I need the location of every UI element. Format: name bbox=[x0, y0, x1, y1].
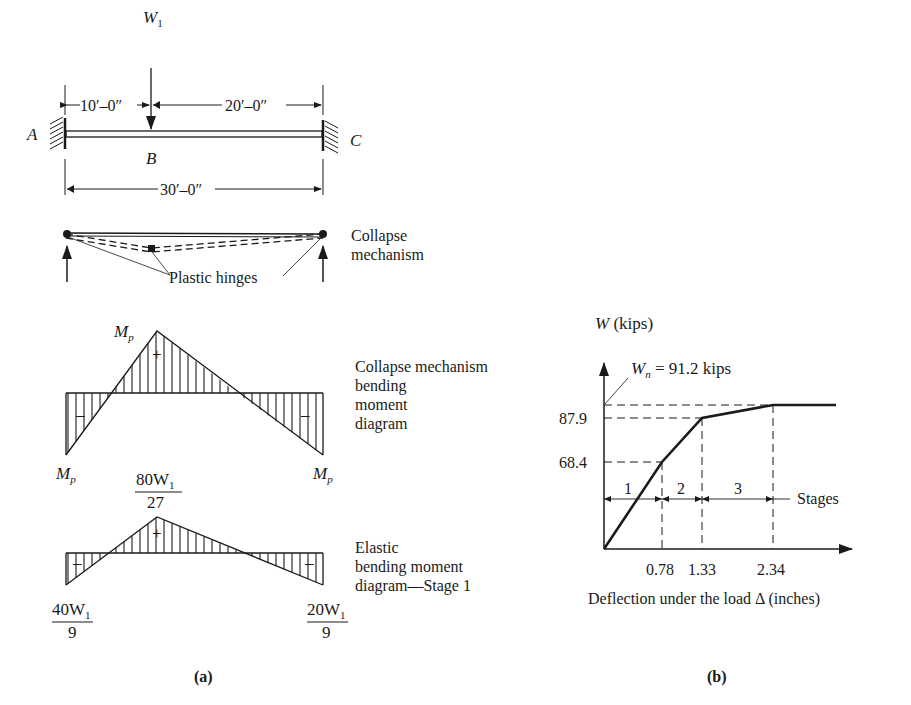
collapse-right-sub: p bbox=[327, 473, 333, 485]
fixed-support-left-icon bbox=[50, 117, 65, 149]
caption-a: (a) bbox=[194, 667, 213, 686]
x-axis-label: Deflection under the load Δ (inches) bbox=[588, 589, 820, 608]
elastic-plus-sign: + bbox=[152, 524, 162, 543]
collapse-left-var: M bbox=[56, 464, 70, 483]
wn-sub: n bbox=[645, 368, 651, 380]
beam bbox=[66, 131, 322, 137]
collapse-right-var: M bbox=[313, 464, 327, 483]
collapse-left-sub: p bbox=[70, 473, 76, 485]
mechanism-title-2: mechanism bbox=[351, 245, 424, 264]
wn-var: W bbox=[631, 359, 645, 378]
elastic-left-sub: 1 bbox=[85, 609, 91, 621]
dim-total-label: 30′–0″ bbox=[160, 180, 202, 199]
stage-2-label: 2 bbox=[677, 479, 685, 498]
x-tick-2-34: 2.34 bbox=[757, 560, 785, 579]
x-tick-1-33: 1.33 bbox=[688, 560, 716, 579]
collapse-bmd-title-3: moment bbox=[355, 395, 407, 414]
caption-b: (b) bbox=[707, 667, 727, 686]
elastic-peak-sub: 1 bbox=[169, 479, 175, 491]
y-axis-unit: (kips) bbox=[613, 314, 653, 333]
elastic-right-sub: 1 bbox=[340, 609, 346, 621]
fixed-support-right-icon bbox=[323, 120, 338, 153]
wn-value: = 91.2 kips bbox=[655, 359, 731, 378]
collapse-bending-moment-diagram bbox=[66, 331, 323, 455]
y-axis-label: W (kips) bbox=[595, 314, 653, 333]
wn-annotation: Wn = 91.2 kips bbox=[631, 359, 731, 384]
dim-right-label: 20′–0″ bbox=[225, 96, 267, 115]
plastic-hinge-right-icon bbox=[319, 230, 327, 238]
elastic-peak-num: 80W bbox=[136, 470, 169, 489]
collapse-right-label: Mp bbox=[313, 464, 333, 489]
y-tick-87-9: 87.9 bbox=[559, 409, 587, 428]
collapse-peak-var: M bbox=[114, 322, 128, 341]
elastic-left-num: 40W bbox=[52, 600, 85, 619]
point-b-label: B bbox=[146, 149, 156, 168]
elastic-peak-denominator: 27 bbox=[147, 493, 164, 512]
collapse-peak-sub: p bbox=[128, 331, 134, 343]
elastic-bmd-title-1: Elastic bbox=[355, 538, 399, 557]
collapse-bmd-title-4: diagram bbox=[355, 414, 407, 433]
elastic-bmd-title-2: bending moment bbox=[355, 557, 463, 576]
x-tick-0-78: 0.78 bbox=[646, 560, 674, 579]
load-label-var: W bbox=[143, 8, 157, 27]
plastic-hinge-left-icon bbox=[63, 230, 71, 238]
collapse-minus-right: – bbox=[301, 405, 310, 424]
dim-left-label: 10′–0″ bbox=[80, 96, 122, 115]
load-deflection-chart bbox=[604, 363, 852, 549]
elastic-left-numerator: 40W1 bbox=[52, 600, 91, 625]
elastic-peak-numerator: 80W1 bbox=[136, 470, 175, 495]
plastic-hinges-label: Plastic hinges bbox=[169, 268, 257, 287]
beam-diagram bbox=[50, 68, 338, 195]
support-a-label: A bbox=[27, 125, 37, 144]
stages-label: Stages bbox=[797, 489, 839, 508]
load-label-sub: 1 bbox=[157, 17, 163, 29]
elastic-minus-right: – bbox=[305, 553, 314, 572]
elastic-right-numerator: 20W1 bbox=[307, 600, 346, 625]
plastic-hinge-mid-icon bbox=[148, 245, 155, 252]
stage-1-label: 1 bbox=[624, 479, 632, 498]
collapse-peak-label: Mp bbox=[114, 322, 134, 347]
collapse-left-label: Mp bbox=[56, 464, 76, 489]
y-axis-var: W bbox=[595, 314, 609, 333]
stage-3-label: 3 bbox=[734, 479, 742, 498]
elastic-left-denominator: 9 bbox=[68, 623, 77, 642]
elastic-minus-left: – bbox=[73, 553, 82, 572]
elastic-right-denominator: 9 bbox=[322, 623, 331, 642]
y-tick-68-4: 68.4 bbox=[559, 453, 587, 472]
collapse-plus-sign: + bbox=[152, 345, 162, 364]
mechanism-title-1: Collapse bbox=[351, 226, 407, 245]
support-c-label: C bbox=[350, 131, 361, 150]
elastic-bmd-title-3: diagram—Stage 1 bbox=[355, 576, 471, 595]
collapse-bmd-title-1: Collapse mechanism bbox=[355, 357, 488, 376]
elastic-right-num: 20W bbox=[307, 600, 340, 619]
elastic-bending-moment-diagram bbox=[52, 492, 348, 622]
collapse-minus-left: – bbox=[76, 405, 85, 424]
collapse-bmd-title-2: bending bbox=[355, 376, 407, 395]
load-deflection-curve bbox=[604, 405, 836, 549]
load-label: W1 bbox=[143, 8, 163, 33]
